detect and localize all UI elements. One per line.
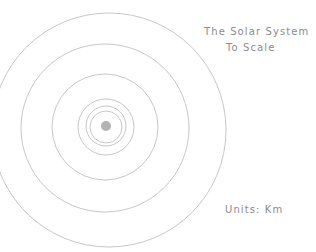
solar-system-figure: The Solar System To Scale Units: Km [0,0,316,252]
figure-title-line-2: To Scale [226,41,275,54]
figure-title-line-1: The Solar System [204,25,309,38]
sun-marker [101,121,111,131]
units-label: Units: Km [225,203,283,216]
